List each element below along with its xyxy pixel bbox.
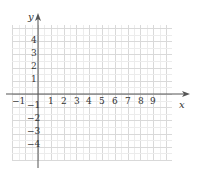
x-tick-label: 3: [74, 96, 80, 106]
coordinate-plane: x y −1 1 2 3 4 5 6 7 8 9 4 3 2 1 −1 −2 −…: [0, 0, 197, 169]
x-tick-label: 1: [48, 96, 54, 106]
y-tick-label: 4: [31, 35, 37, 45]
x-tick-label: 5: [99, 96, 105, 106]
x-tick-label: 9: [150, 96, 156, 106]
y-tick-label: −4: [27, 139, 41, 149]
y-tick-label: −1: [27, 100, 40, 110]
y-tick-label: 1: [31, 74, 37, 84]
x-tick-label: 7: [125, 96, 131, 106]
x-axis-label: x: [179, 99, 185, 110]
y-axis-label: y: [27, 11, 34, 22]
x-tick-label: 2: [61, 96, 67, 106]
y-tick-label: −3: [27, 126, 41, 136]
x-tick-label: 6: [112, 96, 118, 106]
x-tick-label: −1: [12, 96, 25, 106]
x-tick-label: 4: [86, 96, 92, 106]
y-tick-label: 3: [31, 48, 37, 58]
x-tick-label: 8: [138, 96, 144, 106]
y-tick-label: −2: [27, 113, 40, 123]
y-tick-label: 2: [31, 61, 37, 71]
